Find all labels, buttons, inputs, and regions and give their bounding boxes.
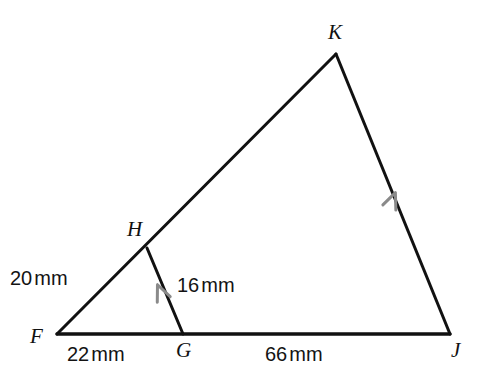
measure-value-FG: 22 bbox=[67, 343, 89, 365]
vertex-label-F: F bbox=[30, 326, 43, 347]
measure-label-HG: 16mm bbox=[177, 275, 235, 295]
vertex-label-K: K bbox=[328, 22, 342, 43]
measure-value-FH: 20 bbox=[10, 267, 32, 289]
geometry-diagram: K H F G J 20mm 16mm 22mm 66mm bbox=[0, 0, 486, 392]
vertex-label-H: H bbox=[127, 219, 142, 240]
measure-unit-FG: mm bbox=[91, 343, 124, 365]
measure-unit-GJ: mm bbox=[289, 343, 322, 365]
triangle-figure-svg bbox=[0, 0, 486, 392]
vertex-label-G: G bbox=[176, 340, 191, 361]
measure-value-GJ: 66 bbox=[265, 343, 287, 365]
measure-label-FH: 20mm bbox=[10, 268, 68, 288]
vertex-label-J: J bbox=[451, 340, 460, 361]
measure-value-HG: 16 bbox=[177, 274, 199, 296]
measure-label-FG: 22mm bbox=[67, 344, 125, 364]
measure-unit-FH: mm bbox=[34, 267, 67, 289]
measure-label-GJ: 66mm bbox=[265, 344, 323, 364]
measure-unit-HG: mm bbox=[201, 274, 234, 296]
